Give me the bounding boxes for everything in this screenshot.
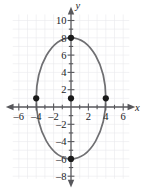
y-tick-label: –8 <box>55 171 67 182</box>
y-tick-label: –6 <box>55 154 67 165</box>
x-tick-label: –4 <box>30 111 42 122</box>
y-tick-label: 10 <box>56 15 67 26</box>
y-tick-label: 8 <box>61 33 66 44</box>
x-tick-label: –6 <box>13 111 25 122</box>
y-tick-label: –4 <box>55 136 67 147</box>
data-point <box>103 95 109 101</box>
y-tick-label: 2 <box>61 84 66 95</box>
y-axis-up-arrow <box>68 7 74 15</box>
ellipse-graph-figure: –6–4–2246108642–2–4–6–8xy <box>0 0 146 192</box>
y-axis-label: y <box>75 0 81 11</box>
x-axis-label: x <box>134 102 140 113</box>
data-point <box>68 156 74 162</box>
x-tick-label: 4 <box>103 111 109 122</box>
data-point <box>33 95 39 101</box>
x-axis-left-arrow <box>6 104 14 110</box>
y-axis-down-arrow <box>68 180 74 188</box>
x-tick-label: 2 <box>86 111 91 122</box>
data-point <box>68 35 74 41</box>
coordinate-plane: –6–4–2246108642–2–4–6–8xy <box>0 0 146 192</box>
x-tick-label: 6 <box>121 111 126 122</box>
y-tick-label: –2 <box>55 119 67 130</box>
y-tick-label: 6 <box>61 50 66 61</box>
y-tick-label: 4 <box>61 67 67 78</box>
data-point <box>68 95 74 101</box>
